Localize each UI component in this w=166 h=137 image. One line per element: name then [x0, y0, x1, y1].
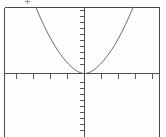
graph-screenshot [0, 0, 166, 137]
parabola-plot [0, 0, 166, 137]
plot-background [0, 0, 166, 137]
